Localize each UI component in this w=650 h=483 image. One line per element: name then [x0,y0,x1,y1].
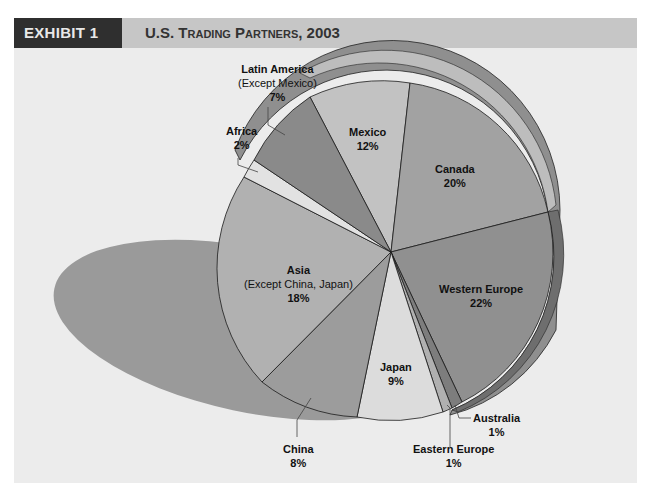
leader-eastern-europe [447,405,450,447]
label-africa: Africa 2% [226,124,257,152]
label-eastern-europe: Eastern Europe 1% [413,442,494,470]
label-china: China 8% [283,442,314,470]
label-western-europe: Western Europe 22% [439,282,523,310]
label-australia: Australia 1% [473,411,520,439]
label-japan: Japan 9% [380,360,412,388]
label-canada: Canada 20% [435,162,475,190]
label-latin-america: Latin America (Except Mexico) 7% [238,62,317,104]
pie-chart [0,0,650,483]
label-mexico: Mexico 12% [349,125,386,153]
label-asia: Asia (Except China, Japan) 18% [244,263,353,305]
